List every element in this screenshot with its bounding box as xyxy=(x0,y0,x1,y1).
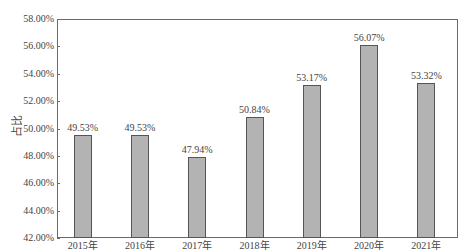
bar-value-label: 56.07% xyxy=(339,33,399,43)
y-tick-label: 44.00% xyxy=(0,206,54,216)
bar xyxy=(246,117,264,238)
y-tick xyxy=(57,183,60,184)
bar xyxy=(303,85,321,238)
y-tick xyxy=(57,46,60,47)
x-tick-label: 2018年 xyxy=(225,241,285,251)
x-tick-label: 2020年 xyxy=(339,241,399,251)
bar xyxy=(360,45,378,238)
bar-value-label: 53.32% xyxy=(396,71,456,81)
bar xyxy=(74,135,92,238)
bar-value-label: 49.53% xyxy=(53,123,113,133)
y-tick xyxy=(57,238,60,239)
y-tick xyxy=(57,101,60,102)
y-tick-label: 52.00% xyxy=(0,96,54,106)
y-tick xyxy=(57,211,60,212)
bar-value-label: 47.94% xyxy=(167,145,227,155)
bar xyxy=(188,157,206,238)
y-tick xyxy=(57,156,60,157)
x-tick-label: 2017年 xyxy=(167,241,227,251)
x-tick-label: 2021年 xyxy=(396,241,456,251)
y-tick-label: 50.00% xyxy=(0,124,54,134)
bar-value-label: 53.17% xyxy=(282,73,342,83)
bar xyxy=(417,83,435,238)
x-tick-label: 2015年 xyxy=(53,241,113,251)
y-tick xyxy=(57,19,60,20)
y-tick-label: 48.00% xyxy=(0,151,54,161)
bar-value-label: 50.84% xyxy=(225,105,285,115)
y-tick xyxy=(57,74,60,75)
bar xyxy=(131,135,149,238)
y-tick-label: 58.00% xyxy=(0,14,54,24)
y-tick-label: 46.00% xyxy=(0,178,54,188)
x-tick-label: 2019年 xyxy=(282,241,342,251)
y-tick-label: 56.00% xyxy=(0,41,54,51)
y-tick-label: 54.00% xyxy=(0,69,54,79)
y-tick-label: 42.00% xyxy=(0,233,54,243)
bar-value-label: 49.53% xyxy=(110,123,170,133)
x-tick-label: 2016年 xyxy=(110,241,170,251)
